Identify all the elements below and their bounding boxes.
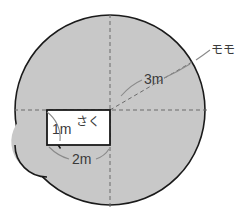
fence-name-label: さく	[76, 115, 100, 129]
fence-height-label: 1m	[52, 121, 71, 137]
animal-label-leader	[196, 50, 210, 60]
animal-name-label: モモ	[211, 43, 235, 57]
rope-length-label: 3m	[144, 71, 163, 87]
fence-width-label: 2m	[72, 151, 91, 167]
diagram-root: 3m 1m 2m さく モモ	[0, 0, 238, 222]
geometry-figure: 3m 1m 2m さく モモ	[0, 0, 238, 222]
